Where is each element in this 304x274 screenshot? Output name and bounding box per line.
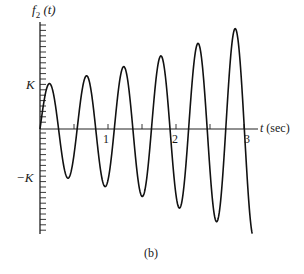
signal-curve bbox=[40, 29, 252, 234]
plot-area bbox=[0, 0, 304, 274]
x-tick-label-3: 3 bbox=[244, 132, 250, 147]
x-axis-label: t (sec) bbox=[260, 121, 290, 136]
y-axis-label: f2 (t) bbox=[32, 2, 56, 20]
figure: f2 (t) K −K 1 2 3 t (sec) (b) bbox=[0, 0, 304, 274]
y-label-arg: (t) bbox=[43, 2, 55, 17]
x-label-var: t bbox=[260, 121, 263, 135]
y-tick-label-k: K bbox=[26, 77, 35, 93]
x-label-unit: (sec) bbox=[266, 121, 289, 135]
figure-caption: (b) bbox=[144, 246, 158, 261]
x-tick-label-2: 2 bbox=[172, 132, 178, 147]
x-tick-label-1: 1 bbox=[103, 132, 109, 147]
y-tick-label-neg-k: −K bbox=[16, 170, 33, 186]
